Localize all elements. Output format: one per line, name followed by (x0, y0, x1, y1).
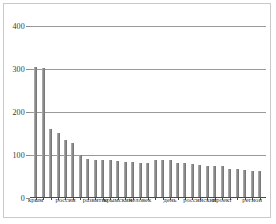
y-axis-tick-label: 300 (12, 65, 25, 74)
bar (146, 163, 149, 197)
bar (251, 171, 254, 197)
chart-figure: 0100200300400 крымроссииразвитиекрымский… (0, 0, 276, 224)
bar (191, 164, 194, 197)
x-axis-tick-label: крымский (103, 196, 132, 203)
x-axis-tick-label: регион (242, 196, 262, 203)
bar (109, 160, 112, 197)
bar (198, 165, 201, 197)
x-axis-tick-label: проект (213, 196, 232, 203)
bars-group (30, 25, 266, 197)
bar (243, 170, 246, 197)
x-axis-labels: крымроссииразвитиекрымскийчеловекденьрос… (30, 196, 266, 208)
y-axis-tick-label: 400 (12, 22, 25, 31)
x-axis-tick-label: день (164, 196, 177, 203)
y-axis-tick-label: 0 (21, 194, 25, 203)
bar (71, 143, 74, 197)
bar (42, 68, 45, 197)
bar (221, 166, 224, 197)
bar (131, 162, 134, 197)
x-axis-tick-label: крым (28, 196, 43, 203)
bar (101, 160, 104, 197)
bar (116, 161, 119, 197)
bar (49, 129, 52, 197)
bar (258, 171, 261, 197)
y-axis-tick-label: 100 (12, 151, 25, 160)
x-axis-tick-label: россии (55, 196, 75, 203)
bar (183, 163, 186, 197)
x-axis-tick-label: российский (183, 196, 216, 203)
bar (161, 160, 164, 197)
bar (139, 163, 142, 197)
bar (79, 155, 82, 197)
x-axis-tick-label: человек (129, 196, 151, 203)
y-axis-tick-label: 200 (12, 108, 25, 117)
bar (236, 169, 239, 197)
bar (176, 163, 179, 197)
bar (213, 166, 216, 197)
plot-area: 0100200300400 (30, 18, 266, 198)
bar (228, 169, 231, 197)
bar (169, 160, 172, 197)
bar (64, 140, 67, 197)
bar (86, 159, 89, 197)
bar (34, 67, 37, 197)
bar (94, 160, 97, 197)
bar (124, 162, 127, 197)
bar (154, 160, 157, 197)
bar (57, 133, 60, 198)
bar (206, 166, 209, 197)
